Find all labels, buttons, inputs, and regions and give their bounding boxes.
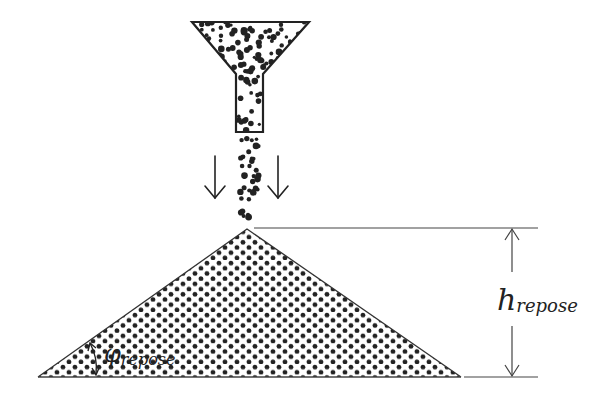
height-subscript: repose [516, 295, 578, 316]
height-label: hrepose [497, 282, 578, 317]
angle-subscript: repose [121, 350, 176, 369]
flow-arrow-left [205, 156, 225, 198]
angle-symbol: φ [104, 340, 121, 368]
falling-stream [237, 136, 261, 221]
funnel-particles [189, 19, 312, 135]
funnel [189, 19, 312, 135]
pile [38, 229, 461, 377]
angle-of-repose-diagram: hrepose φrepose [0, 0, 606, 403]
height-symbol: h [497, 282, 516, 317]
pile-fill [38, 229, 461, 377]
flow-arrow-right [268, 156, 288, 198]
